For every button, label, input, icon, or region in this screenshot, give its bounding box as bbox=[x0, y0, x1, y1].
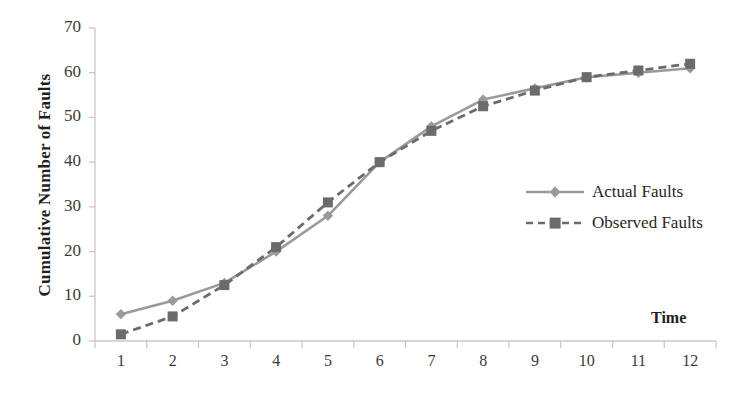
y-tick-label: 50 bbox=[33, 106, 81, 126]
x-tick-label: 2 bbox=[156, 352, 190, 370]
x-tick-label: 8 bbox=[466, 352, 500, 370]
legend-label-actual-faults: Actual Faults bbox=[586, 182, 683, 202]
y-tick-label: 10 bbox=[33, 285, 81, 305]
fault-growth-chart: Cumulative Number of Faults Time 0102030… bbox=[0, 0, 741, 394]
y-tick-label: 30 bbox=[33, 196, 81, 216]
x-tick-label: 12 bbox=[673, 352, 707, 370]
x-tick-label: 10 bbox=[570, 352, 604, 370]
x-tick-label: 1 bbox=[104, 352, 138, 370]
x-tick-label: 4 bbox=[259, 352, 293, 370]
y-tick-label: 60 bbox=[33, 62, 81, 82]
legend-label-observed-faults: Observed Faults bbox=[586, 213, 703, 233]
y-tick-label: 40 bbox=[33, 151, 81, 171]
legend-item-actual-faults: Actual Faults bbox=[524, 176, 734, 207]
x-tick-label: 3 bbox=[207, 352, 241, 370]
y-tick-label: 0 bbox=[33, 330, 81, 350]
diamond-marker-icon bbox=[524, 183, 586, 201]
x-axis-title: Time bbox=[651, 309, 686, 327]
y-tick-label: 70 bbox=[33, 17, 81, 37]
chart-legend: Actual Faults Observed Faults bbox=[524, 176, 734, 238]
x-tick-label: 5 bbox=[311, 352, 345, 370]
x-tick-label: 7 bbox=[414, 352, 448, 370]
x-tick-label: 6 bbox=[363, 352, 397, 370]
x-tick-label: 9 bbox=[518, 352, 552, 370]
square-marker-icon bbox=[524, 214, 586, 232]
legend-item-observed-faults: Observed Faults bbox=[524, 207, 734, 238]
y-tick-label: 20 bbox=[33, 241, 81, 261]
x-tick-label: 11 bbox=[621, 352, 655, 370]
